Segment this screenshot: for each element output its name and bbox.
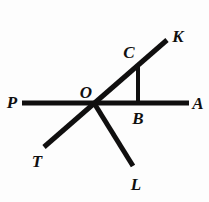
point-label-T: T [32, 153, 42, 170]
point-label-B: B [132, 110, 143, 127]
point-label-P: P [7, 94, 17, 111]
point-label-L: L [131, 176, 141, 193]
geometry-diagram: P A K T L O B C [0, 0, 209, 202]
point-label-C: C [123, 44, 134, 61]
point-label-O: O [80, 84, 92, 101]
point-label-K: K [172, 28, 183, 45]
line-segment-TK [44, 40, 167, 147]
point-label-A: A [192, 95, 203, 112]
line-segment-OL [94, 103, 133, 166]
